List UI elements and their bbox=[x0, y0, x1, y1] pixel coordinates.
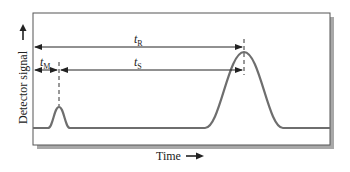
y-axis-arrow-icon bbox=[20, 24, 27, 31]
chromatogram-svg: tR tM tS Detector signal Time bbox=[0, 0, 350, 172]
y-axis-label: Detector signal bbox=[16, 50, 30, 124]
chromatogram-diagram: tR tM tS Detector signal Time bbox=[0, 0, 350, 172]
x-axis-label: Time bbox=[156, 149, 181, 163]
x-axis-arrow-icon bbox=[196, 153, 204, 160]
plot-frame bbox=[33, 13, 330, 145]
y-axis-label-group: Detector signal bbox=[16, 50, 30, 124]
